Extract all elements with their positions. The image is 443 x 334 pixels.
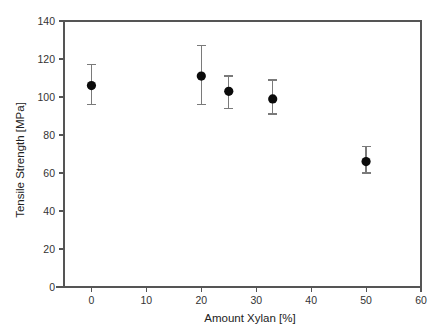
- x-axis-title: Amount Xylan [%]: [204, 312, 295, 324]
- x-tick-label: 20: [195, 294, 207, 306]
- y-tick-label: 80: [43, 129, 55, 141]
- data-point-group: [197, 46, 206, 105]
- data-point-marker: [197, 72, 206, 81]
- x-axis-ticks: 0102030405060: [89, 287, 427, 306]
- x-tick-label: 10: [141, 294, 153, 306]
- y-tick-label: 60: [43, 167, 55, 179]
- data-point-group: [361, 146, 370, 173]
- y-tick-label: 120: [37, 53, 55, 65]
- data-point-group: [87, 65, 96, 105]
- x-tick-label: 0: [89, 294, 95, 306]
- x-tick-label: 30: [250, 294, 262, 306]
- data-point-marker: [87, 81, 96, 90]
- chart-container: 020406080100120140 0102030405060 Tensile…: [0, 0, 443, 334]
- y-tick-label: 40: [43, 205, 55, 217]
- x-tick-label: 40: [305, 294, 317, 306]
- data-point-marker: [268, 94, 277, 103]
- x-tick-label: 50: [360, 294, 372, 306]
- scatter-plot-with-error-bars: 020406080100120140 0102030405060 Tensile…: [0, 0, 443, 334]
- data-point-marker: [361, 157, 370, 166]
- data-series: [87, 46, 371, 173]
- y-axis-title: Tensile Strength [MPa]: [14, 102, 26, 218]
- data-point-marker: [224, 87, 233, 96]
- y-tick-label: 20: [43, 243, 55, 255]
- plot-box-border: [64, 21, 421, 287]
- data-point-group: [268, 80, 277, 114]
- data-point-group: [224, 76, 233, 108]
- x-tick-label: 60: [415, 294, 427, 306]
- y-tick-label: 140: [37, 15, 55, 27]
- y-tick-label: 100: [37, 91, 55, 103]
- y-axis-ticks: 020406080100120140: [37, 15, 64, 293]
- y-tick-label: 0: [49, 281, 55, 293]
